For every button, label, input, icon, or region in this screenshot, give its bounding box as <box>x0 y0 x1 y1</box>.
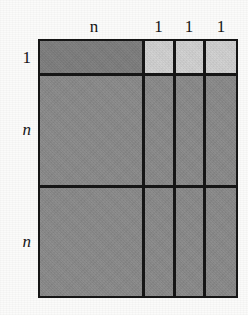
column-divider-1 <box>173 41 176 296</box>
column-label-2: 1 <box>174 18 204 35</box>
matrix-cell-r1c0 <box>40 74 143 186</box>
matrix-cell-r2c3 <box>204 186 236 296</box>
row-divider-0 <box>40 73 236 76</box>
matrix-cell-r2c0 <box>40 186 143 296</box>
matrix-cell-r0c2 <box>174 41 204 74</box>
row-label-1: n <box>0 121 31 138</box>
matrix-cell-r0c1 <box>143 41 174 74</box>
matrix-cell-r2c1 <box>143 186 174 296</box>
column-divider-0 <box>142 41 145 296</box>
column-label-0: n <box>46 18 142 35</box>
matrix-cell-r2c2 <box>174 186 204 296</box>
column-label-3: 1 <box>204 18 238 35</box>
column-divider-2 <box>203 41 206 296</box>
matrix-cell-r1c2 <box>174 74 204 186</box>
matrix-grid <box>38 39 238 298</box>
matrix-cell-r1c3 <box>204 74 236 186</box>
row-divider-1 <box>40 185 236 188</box>
row-label-0: 1 <box>0 49 31 66</box>
matrix-cell-r0c3 <box>204 41 236 74</box>
matrix-cell-r1c1 <box>143 74 174 186</box>
block-matrix-figure: n 1 1 1 1 n n <box>0 0 248 315</box>
row-label-2: n <box>0 233 31 250</box>
matrix-cell-r0c0 <box>40 41 143 74</box>
column-label-1: 1 <box>143 18 174 35</box>
